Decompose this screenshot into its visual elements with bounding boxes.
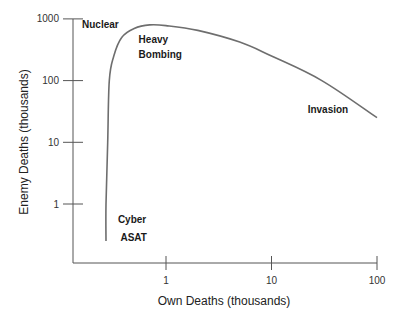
x-axis-title: Own Deaths (thousands) xyxy=(158,294,291,308)
chart: Enemy Deaths (thousands) Own Deaths (tho… xyxy=(0,0,404,327)
annotation-nuclear: Nuclear xyxy=(82,19,119,30)
y-tick-label: 1 xyxy=(53,199,59,210)
annotation-invasion: Invasion xyxy=(308,104,349,115)
annotation-heavy: Heavy xyxy=(139,34,169,45)
y-tick-label: 10 xyxy=(48,137,60,148)
y-axis-ticks: 1101001000 xyxy=(37,13,83,209)
x-axis-ticks: 110100 xyxy=(163,256,386,286)
x-tick-label: 100 xyxy=(369,275,386,286)
y-tick-label: 1000 xyxy=(37,13,60,24)
annotation-cyber: Cyber xyxy=(118,214,146,225)
x-tick-label: 1 xyxy=(163,275,169,286)
x-tick-label: 10 xyxy=(266,275,278,286)
annotation-asat: ASAT xyxy=(120,232,146,243)
annotation-bombing: Bombing xyxy=(139,49,182,60)
y-tick-label: 100 xyxy=(42,75,59,86)
y-axis-title: Enemy Deaths (thousands) xyxy=(17,69,31,214)
annotations: NuclearHeavyBombingInvasionCyberASAT xyxy=(82,19,348,243)
